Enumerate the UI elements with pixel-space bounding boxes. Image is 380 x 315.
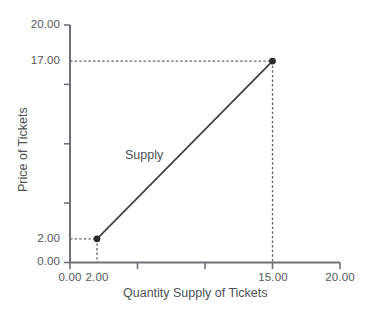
data-point-marker-low [94, 235, 101, 242]
data-point-marker-high [269, 58, 276, 65]
x-axis-title: Quantity Supply of Tickets [123, 286, 268, 300]
x-tick-label-2: 2.00 [75, 271, 119, 283]
y-tick-label-17: 17.00 [12, 54, 60, 66]
y-tick-label-2: 2.00 [12, 232, 60, 244]
series-label-supply: Supply [125, 148, 163, 162]
chart-canvas [0, 0, 380, 315]
x-tick-label-15: 15.00 [250, 271, 296, 283]
y-tick-label-0: 0.00 [12, 255, 60, 267]
supply-curve-chart: 20.00 17.00 2.00 0.00 0.00 2.00 15.00 20… [0, 0, 380, 315]
x-tick-label-20: 20.00 [317, 271, 363, 283]
supply-line [97, 61, 273, 239]
y-axis-title: Price of Tickets [16, 107, 30, 192]
y-tick-label-20: 20.00 [12, 18, 60, 30]
